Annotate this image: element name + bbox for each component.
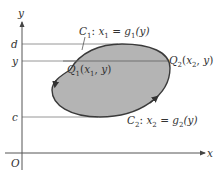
curve-c1-label: C1: x1 = g1(y) xyxy=(79,25,150,40)
level-label-d: d xyxy=(11,38,18,50)
level-label-c: c xyxy=(12,111,18,123)
c1-leader-line xyxy=(82,37,85,50)
y-axis-label: y xyxy=(17,7,25,19)
x-axis-label: x xyxy=(207,147,213,159)
region-boundary xyxy=(52,44,170,117)
level-label-y: y xyxy=(11,55,19,67)
origin-label: O xyxy=(11,157,20,169)
point-q2-label: Q2(x2, y) xyxy=(169,54,213,69)
region-diagram: y x O d y c C1: x1 = g1(y) C2: x2 = g2(y… xyxy=(0,0,215,180)
curve-c2-label: C2: x2 = g2(y) xyxy=(127,114,198,129)
